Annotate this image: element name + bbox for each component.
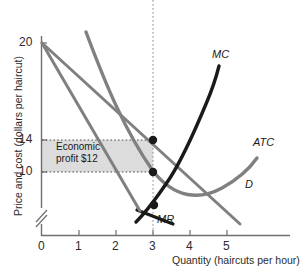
atc-point-marker: [149, 168, 157, 176]
economic-profit-line-2: profit $12: [56, 153, 100, 165]
x-axis-title: Quantity (haircuts per hour): [172, 254, 300, 266]
mr-mc-point-marker: [150, 201, 158, 209]
x-tick-label-0: 0: [38, 239, 45, 253]
price-point-marker: [149, 136, 157, 144]
x-tick-label-3: 3: [149, 239, 156, 253]
x-tick-label-1: 1: [75, 239, 82, 253]
atc-curve-label: ATC: [253, 136, 274, 148]
x-tick-label-4: 4: [186, 239, 193, 253]
y-tick-label-20: 20: [19, 35, 32, 49]
x-tick-label-2: 2: [112, 239, 119, 253]
economic-profit-annotation: Economic profit $12: [56, 141, 100, 165]
demand-curve-label: D: [245, 178, 253, 190]
mc-curve-label: MC: [212, 48, 229, 60]
economics-chart-figure: 20 14 10 0 1 2 3 4 5 Price and cost (dol…: [0, 0, 304, 274]
demand-curve: [42, 43, 240, 224]
economic-profit-line-1: Economic: [56, 141, 100, 153]
mr-curve-label: MR: [157, 213, 174, 225]
x-tick-label-5: 5: [223, 239, 230, 253]
y-axis-title: Price and cost (dollars per haircut): [12, 56, 24, 216]
